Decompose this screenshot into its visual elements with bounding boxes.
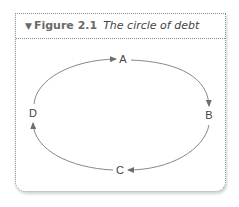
edge-a-b [131, 60, 209, 106]
node-a: A [119, 53, 127, 65]
node-c: C [116, 164, 124, 176]
edge-b-c [128, 125, 209, 170]
node-b: B [205, 109, 212, 121]
cycle-diagram: A B C D [0, 0, 239, 207]
node-d: D [29, 107, 37, 119]
edge-d-a [34, 59, 116, 104]
edge-c-d [33, 123, 113, 170]
